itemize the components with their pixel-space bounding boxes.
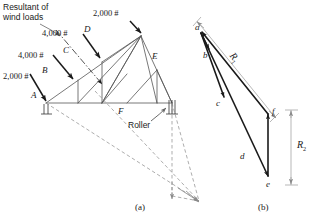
figure-container: Resultant of wind loads 2,000 # 4,000 # … xyxy=(0,0,321,223)
roller-leader-line xyxy=(151,108,166,121)
polygon-label-f: f xyxy=(272,107,275,116)
resultant-line2: wind loads xyxy=(3,12,43,22)
polygon-label-e: e xyxy=(266,180,270,189)
resultant-annotation: Resultant of wind loads xyxy=(3,3,48,22)
load-label-2000-upper: 2,000 # xyxy=(93,9,119,18)
polygon-label-c: c xyxy=(216,99,220,108)
R2-subscript: 2 xyxy=(303,145,306,152)
space-label-A: A xyxy=(31,91,37,100)
polygon-label-b: b xyxy=(203,51,208,60)
load-label-4000-lower: 4,000 # xyxy=(18,51,44,60)
space-label-F: F xyxy=(118,107,124,116)
polygon-label-d: d xyxy=(240,152,245,161)
vector-ac xyxy=(201,33,224,97)
pin-support-icon xyxy=(41,104,52,114)
load-arrow-4000-upper xyxy=(83,34,100,58)
load-label-4000-upper: 4,000 # xyxy=(42,29,68,38)
caption-b: (b) xyxy=(258,203,269,212)
resultant-of-wind-loads-line xyxy=(56,30,102,84)
load-arrow-2000-upper xyxy=(130,21,141,33)
space-label-D: D xyxy=(84,25,91,34)
polygon-label-a: a xyxy=(195,23,200,32)
load-label-2000-lower: 2,000 # xyxy=(3,72,29,81)
space-label-B: B xyxy=(42,66,48,75)
resultant-line1: Resultant of xyxy=(3,2,48,12)
space-label-C: C xyxy=(63,46,69,55)
vector-fa-R1 xyxy=(202,32,268,114)
reaction-label-R2: R2 xyxy=(297,140,306,152)
caption-a: (a) xyxy=(135,203,145,212)
load-arrow-4000-lower xyxy=(53,55,73,79)
space-label-E: E xyxy=(152,52,158,61)
roller-label: Roller xyxy=(128,121,150,130)
